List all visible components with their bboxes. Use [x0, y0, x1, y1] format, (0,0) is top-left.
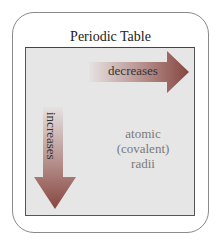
property-line-1: atomic: [103, 126, 183, 141]
diagram-title: Periodic Table: [0, 29, 221, 45]
property-line-3: radii: [103, 156, 183, 171]
property-line-2: (covalent): [103, 141, 183, 156]
decreases-label: decreases: [98, 63, 168, 79]
property-label: atomic (covalent) radii: [103, 126, 183, 171]
increases-label: increases: [43, 112, 59, 160]
